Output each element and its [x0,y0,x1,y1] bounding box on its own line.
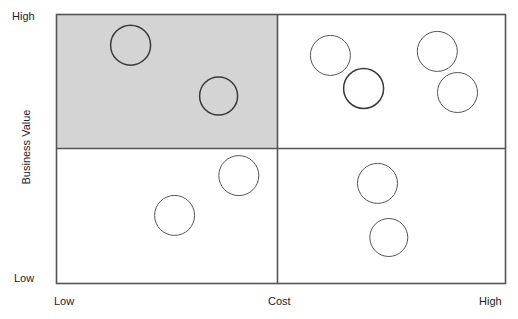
plot-area [0,0,518,319]
quadrant-high-value-high-cost [278,15,506,149]
quadrant-high-value-low-cost [57,15,278,149]
quadrant-chart: Business Value High Low Low Cost High [0,0,518,319]
quadrant-low-value-low-cost [57,149,278,284]
